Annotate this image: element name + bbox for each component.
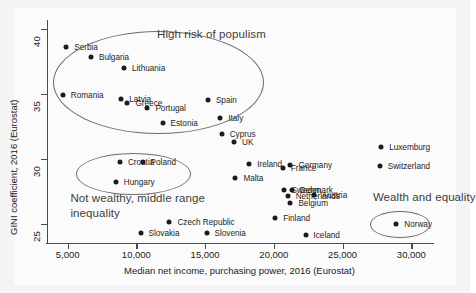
x-tick-label: 5,000: [56, 249, 80, 260]
x-axis-title: Median net income, purchasing power, 201…: [47, 265, 432, 276]
data-point: [273, 216, 278, 221]
y-tick-label: 40: [31, 27, 42, 55]
y-tick-label: 35: [31, 92, 42, 120]
data-point: [285, 194, 290, 199]
y-tick-mark: [41, 159, 47, 160]
data-point: [289, 187, 294, 192]
data-point-label: Iceland: [314, 231, 340, 240]
wealth-and-equality-ellipse: [370, 211, 430, 238]
chart-annotation: Wealth and equality: [373, 191, 476, 203]
data-point: [280, 165, 285, 170]
y-tick-mark: [41, 94, 47, 95]
data-point: [288, 163, 293, 168]
middle-inequality-ellipse: [76, 153, 191, 195]
chart-annotation: High risk of populism: [157, 28, 266, 40]
data-point: [64, 44, 69, 49]
data-point-label: Belgium: [298, 198, 328, 207]
data-point-label: UK: [242, 137, 253, 146]
data-point-label: Malta: [243, 174, 263, 183]
data-point: [204, 230, 209, 235]
data-point: [232, 139, 237, 144]
y-tick-label: 30: [31, 157, 42, 185]
data-point: [138, 230, 143, 235]
data-point: [377, 164, 382, 169]
data-point-label: Finland: [283, 214, 310, 223]
data-point-label: Slovenia: [215, 228, 246, 237]
data-point: [233, 176, 238, 181]
y-axis-line: [47, 20, 48, 244]
data-point: [288, 200, 293, 205]
data-point: [281, 187, 286, 192]
x-axis-line: [46, 243, 434, 244]
data-point-label: Ireland: [257, 159, 282, 168]
high-risk-of-populism-ellipse: [53, 31, 264, 134]
x-tick-label: 25,000: [328, 249, 357, 260]
x-tick-label: 30,000: [397, 249, 426, 260]
data-point-label: Slovakia: [149, 228, 180, 237]
y-axis-title: GINI coefficient, 2016 (Eurostat): [8, 35, 19, 235]
data-point-label: Germany: [298, 161, 332, 170]
data-point: [219, 131, 224, 136]
data-point-label: Switzerland: [388, 162, 430, 171]
y-tick-label: 25: [31, 222, 42, 250]
chart-annotation: Not wealthy, middle range inequality: [70, 191, 210, 222]
data-point: [379, 144, 384, 149]
data-point: [303, 233, 308, 238]
data-point: [247, 161, 252, 166]
x-tick-label: 20,000: [259, 249, 288, 260]
y-tick-mark: [41, 224, 47, 225]
x-tick-label: 15,000: [191, 249, 220, 260]
data-point-label: Luxemburg: [389, 142, 430, 151]
x-tick-label: 10,000: [122, 249, 151, 260]
y-tick-mark: [41, 29, 47, 30]
